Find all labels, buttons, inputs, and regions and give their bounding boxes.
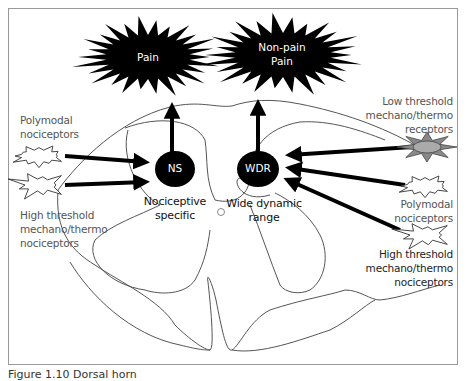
spinal-cord-outline — [58, 100, 440, 351]
low-threshold-label-line1: Low threshold — [365, 95, 453, 108]
polymodal-right-label-line1: Polymodal — [365, 198, 453, 211]
non-pain-label-line2: Pain — [252, 55, 312, 68]
polymodal-left-receptor — [13, 146, 61, 168]
non-pain-label-line1: Non-pain — [252, 41, 312, 54]
high-threshold-left-label-line3: nociceptors — [20, 237, 79, 250]
high-threshold-right-label-line1: High threshold — [345, 248, 453, 261]
high-threshold-right-label-line3: nociceptors — [345, 276, 453, 289]
ns-abbr: NS — [155, 162, 195, 175]
high-threshold-left-receptor — [8, 174, 61, 199]
low-threshold-label-line2: mechano/thermo — [365, 109, 453, 122]
polymodal-right-receptor — [399, 176, 447, 198]
high-threshold-right-label-line2: mechano/thermo — [345, 262, 453, 275]
pain-label: Pain — [128, 51, 168, 64]
high-threshold-left-arrow — [65, 182, 145, 185]
high-threshold-left-label-line1: High threshold — [20, 209, 94, 222]
polymodal-left-label-line2: nociceptors — [20, 128, 79, 141]
wdr-label-line2: range — [224, 211, 304, 224]
high-threshold-right-receptor — [392, 224, 448, 249]
polymodal-left-arrow — [65, 156, 145, 162]
ns-label-line2: specific — [140, 209, 210, 222]
wdr-abbr: WDR — [237, 162, 279, 175]
ns-label-line1: Nociceptive — [140, 195, 210, 208]
wdr-label-line1: Wide dynamic — [224, 197, 304, 210]
low-threshold-receptor — [397, 132, 457, 162]
projection-arrows — [172, 104, 258, 153]
polymodal-right-label-line2: nociceptors — [365, 212, 453, 225]
polymodal-right-arrow — [290, 168, 405, 185]
low-threshold-right-arrow — [290, 147, 412, 155]
figure-caption: Figure 1.10 Dorsal horn — [8, 368, 137, 381]
polymodal-left-label-line1: Polymodal — [20, 114, 72, 127]
low-threshold-label-line3: receptors — [365, 123, 453, 136]
high-threshold-left-label-line2: mechano/thermo — [20, 223, 107, 236]
